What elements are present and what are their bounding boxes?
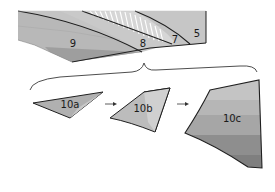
layer-label-7: 7 <box>172 34 178 45</box>
layer-label-8: 8 <box>140 38 146 49</box>
fragment-label-10a: 10a <box>61 99 80 110</box>
fragment-10a: 10a <box>33 92 103 118</box>
arrow-right-icon <box>177 102 189 106</box>
arrow-right-icon <box>105 102 117 106</box>
fragment-10c: 10c <box>180 78 270 170</box>
curly-brace <box>30 63 257 90</box>
fragment-10b: 10b <box>110 88 170 132</box>
fragment-label-10b: 10b <box>133 103 152 114</box>
layer-label-9: 9 <box>70 38 76 49</box>
cross-section: 9 8 7 5 <box>18 11 206 62</box>
geology-diagram: 9 8 7 5 10a 10b <box>0 0 275 192</box>
layer-label-5: 5 <box>194 28 200 39</box>
fragment-label-10c: 10c <box>223 113 241 124</box>
